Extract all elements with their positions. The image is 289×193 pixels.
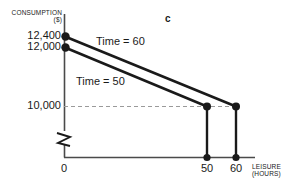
data-point-50-axis: [203, 154, 210, 161]
figure-panel-c: CONSUMPTION ($) 12,400 12,000 10,000 0 5…: [0, 0, 289, 193]
y-axis-title-line2: ($): [3, 17, 62, 24]
x-tick-label-origin: 0: [61, 163, 67, 175]
data-point-60-axis: [232, 154, 239, 161]
data-point-60-10000: [232, 103, 240, 111]
x-axis-title: LEISURE (HOURS): [252, 164, 281, 178]
budget-line-time-60: [65, 37, 236, 107]
x-tick-label-60: 60: [230, 163, 242, 175]
x-axis-title-line2: (HOURS): [252, 171, 281, 178]
panel-label: c: [165, 14, 171, 25]
data-point-12000: [61, 43, 69, 51]
data-point-50-10000: [203, 103, 211, 111]
y-tick-label-12000: 12,000: [0, 41, 61, 53]
y-axis-break-icon: [57, 133, 70, 146]
y-axis-title: CONSUMPTION ($): [3, 10, 62, 24]
curve-label-time-50: Time = 50: [76, 76, 125, 88]
y-tick-label-10000: 10,000: [0, 100, 61, 112]
curve-label-time-60: Time = 60: [96, 36, 145, 48]
data-point-12400: [61, 32, 69, 40]
x-tick-label-50: 50: [201, 163, 213, 175]
